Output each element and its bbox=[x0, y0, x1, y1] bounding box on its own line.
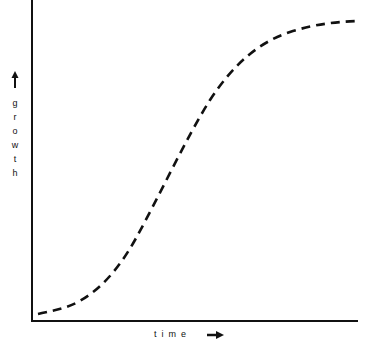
x-axis-label: time bbox=[154, 329, 191, 339]
y-label-letter: r bbox=[10, 110, 20, 124]
y-label-letter: o bbox=[10, 124, 20, 138]
up-arrow-icon bbox=[12, 71, 19, 88]
y-axis-label: g r o w t h bbox=[10, 96, 20, 180]
growth-chart bbox=[0, 0, 374, 349]
growth-curve bbox=[38, 21, 357, 314]
y-label-letter: t bbox=[10, 152, 20, 166]
y-label-letter: g bbox=[10, 96, 20, 110]
y-label-letter: h bbox=[10, 166, 20, 180]
y-label-letter: w bbox=[10, 138, 20, 152]
right-arrow-icon bbox=[207, 331, 224, 339]
